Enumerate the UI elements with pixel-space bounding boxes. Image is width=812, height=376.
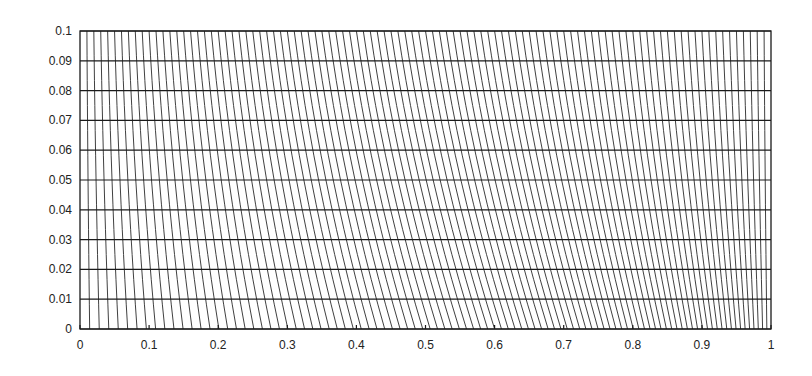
x-tick-label: 0.8 — [624, 338, 641, 352]
y-tick-label: 0.03 — [49, 233, 73, 247]
y-tick-label: 0.09 — [49, 54, 73, 68]
y-tick-label: 0.1 — [55, 24, 72, 38]
y-tick-label: 0.05 — [49, 173, 73, 187]
x-tick-label: 0.1 — [141, 338, 158, 352]
x-tick-label: 0.4 — [348, 338, 365, 352]
x-tick-label: 1 — [768, 338, 775, 352]
x-tick-label: 0.3 — [279, 338, 296, 352]
y-tick-label: 0.01 — [49, 292, 73, 306]
x-tick-label: 0.6 — [486, 338, 503, 352]
x-tick-label: 0.2 — [210, 338, 227, 352]
x-tick-label: 0.5 — [417, 338, 434, 352]
y-tick-label: 0 — [65, 322, 72, 336]
mesh-chart: 00.010.020.030.040.050.060.070.080.090.1… — [0, 0, 812, 376]
y-tick-label: 0.04 — [49, 203, 73, 217]
y-tick-label: 0.08 — [49, 84, 73, 98]
x-tick-label: 0.9 — [694, 338, 711, 352]
y-tick-label: 0.02 — [49, 262, 73, 276]
x-tick-label: 0.7 — [555, 338, 572, 352]
y-tick-label: 0.06 — [49, 143, 73, 157]
y-tick-label: 0.07 — [49, 113, 73, 127]
x-tick-label: 0 — [77, 338, 84, 352]
y-axis-tick-labels: 00.010.020.030.040.050.060.070.080.090.1 — [49, 24, 73, 336]
